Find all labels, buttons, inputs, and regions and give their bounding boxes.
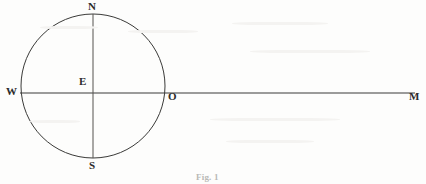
label-west: W — [6, 86, 17, 97]
figure-caption: Fig. 1 — [196, 172, 219, 182]
label-point-m: M — [409, 91, 419, 102]
figure-diagram: N S W E O M Fig. 1 — [0, 0, 426, 184]
label-south: S — [89, 160, 95, 171]
label-north: N — [88, 1, 96, 12]
label-center-e: E — [79, 76, 86, 87]
diagram-canvas — [0, 0, 426, 184]
label-point-o: O — [168, 91, 177, 102]
